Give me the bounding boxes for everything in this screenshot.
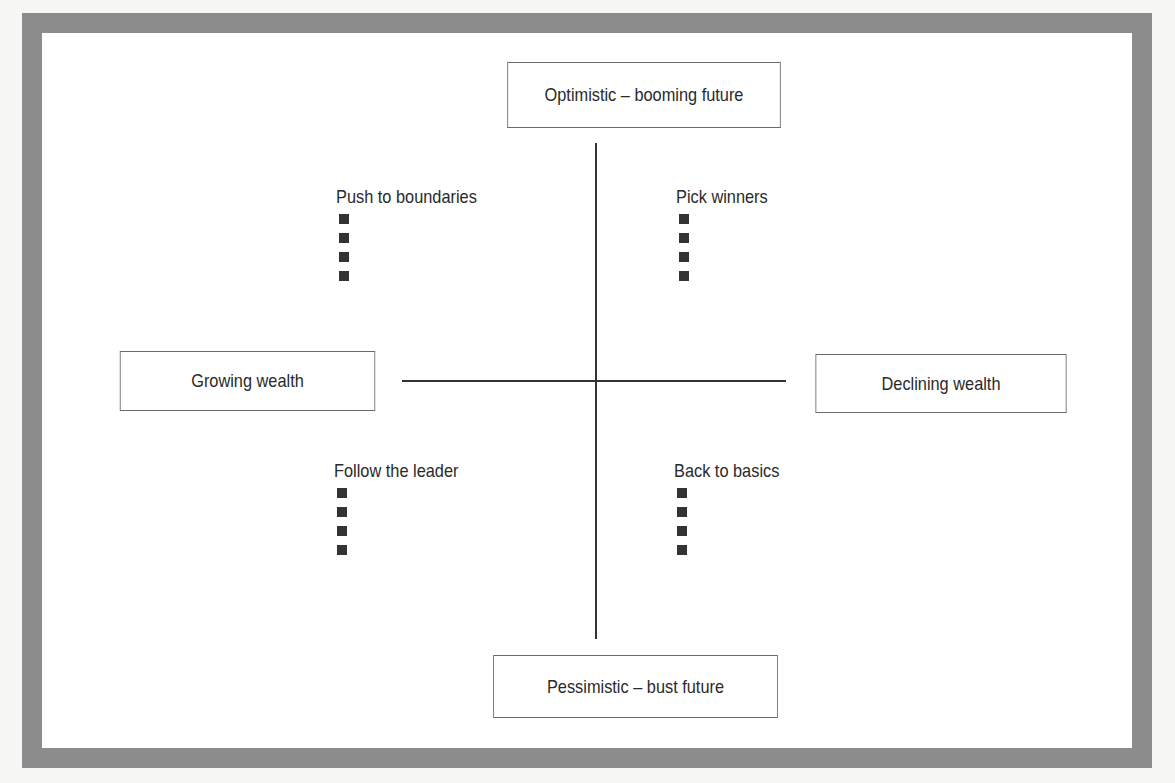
bullet-square-icon [339, 214, 349, 224]
axis-label-top: Optimistic – booming future [507, 62, 780, 128]
quadrant-bottom-left: Follow the leader [334, 460, 479, 564]
bullet-square-icon [339, 233, 349, 243]
axis-label-top-text: Optimistic – booming future [545, 84, 744, 106]
quadrant-top-left: Push to boundaries [336, 186, 500, 290]
horizontal-axis-line [402, 380, 786, 382]
bullet-square-icon [337, 507, 347, 517]
bullet-square-icon [677, 545, 687, 555]
bullet-list [334, 488, 479, 555]
bullet-list [674, 488, 797, 555]
bullet-square-icon [337, 526, 347, 536]
bullet-square-icon [679, 233, 689, 243]
quadrant-title: Pick winners [676, 186, 768, 208]
quadrant-title: Follow the leader [334, 460, 458, 482]
bullet-list [336, 214, 500, 281]
bullet-square-icon [679, 214, 689, 224]
axis-label-right: Declining wealth [815, 354, 1066, 413]
axis-label-bottom-text: Pessimistic – bust future [547, 676, 724, 698]
bullet-square-icon [679, 252, 689, 262]
bullet-square-icon [677, 507, 687, 517]
axis-label-right-text: Declining wealth [881, 373, 1000, 395]
bullet-square-icon [337, 545, 347, 555]
bullet-list [676, 214, 783, 281]
bullet-square-icon [339, 271, 349, 281]
bullet-square-icon [677, 526, 687, 536]
bullet-square-icon [337, 488, 347, 498]
axis-label-left-text: Growing wealth [191, 370, 304, 392]
quadrant-top-right: Pick winners [676, 186, 783, 290]
bullet-square-icon [339, 252, 349, 262]
axis-label-bottom: Pessimistic – bust future [493, 655, 778, 718]
quadrant-title: Push to boundaries [336, 186, 477, 208]
bullet-square-icon [677, 488, 687, 498]
axis-label-left: Growing wealth [120, 351, 375, 411]
vertical-axis-line [595, 143, 597, 639]
quadrant-title: Back to basics [674, 460, 779, 482]
bullet-square-icon [679, 271, 689, 281]
quadrant-bottom-right: Back to basics [674, 460, 797, 564]
